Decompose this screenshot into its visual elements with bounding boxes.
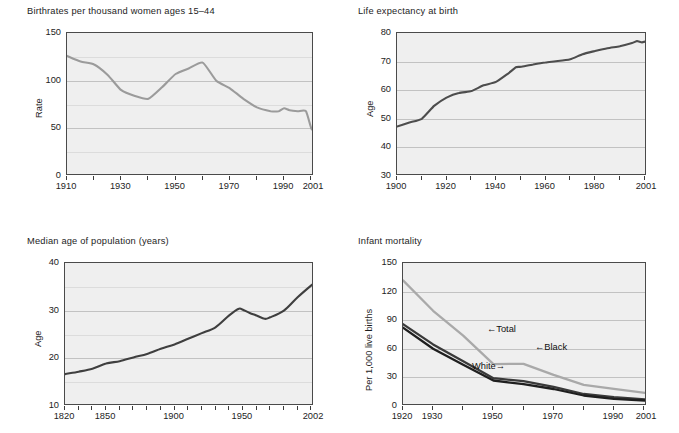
x-axis-tick	[297, 406, 298, 410]
chart-title-birthrates: Birthrates per thousand women ages 15–44	[27, 6, 215, 16]
x-axis-label: 2001	[303, 181, 324, 191]
x-axis-tick	[147, 176, 148, 180]
x-axis-label: 2001	[636, 411, 657, 421]
y-axis-label: 30	[372, 371, 397, 381]
y-axis-label: 70	[366, 56, 391, 66]
x-axis-tick	[229, 176, 230, 180]
x-axis-tick	[644, 176, 645, 180]
x-axis-label: 1970	[219, 181, 240, 191]
x-axis-label: 1920	[392, 411, 413, 421]
x-axis-tick	[175, 176, 176, 180]
x-axis-tick	[105, 406, 106, 410]
series-group	[65, 263, 313, 405]
x-axis-label: 1970	[542, 411, 563, 421]
x-axis-label: 1950	[232, 411, 253, 421]
x-axis-tick	[396, 176, 397, 180]
series-line-black	[403, 280, 646, 393]
x-axis-tick	[228, 406, 229, 410]
y-axis-label: 40	[366, 141, 391, 151]
x-axis-tick	[174, 406, 175, 410]
x-axis-label: 1940	[485, 181, 506, 191]
plot-background-birthrates	[66, 32, 313, 175]
series-group	[397, 33, 646, 175]
x-axis-label: 1820	[54, 411, 75, 421]
y-axis-label: 0	[36, 170, 61, 180]
x-axis-tick	[91, 406, 92, 410]
x-axis-tick	[613, 406, 614, 410]
x-axis-tick	[283, 406, 284, 410]
series-line-birthrates	[67, 56, 313, 130]
x-axis-tick	[520, 176, 521, 180]
series-annotation-white: White→	[472, 361, 505, 371]
y-axis-label: 30	[366, 170, 391, 180]
plot-background-median-age	[64, 262, 313, 405]
x-axis-tick	[310, 406, 311, 410]
x-axis-tick	[242, 406, 243, 410]
y-axis-label: 60	[372, 343, 397, 353]
x-axis-tick	[64, 406, 65, 410]
y-axis-label: 0	[372, 400, 397, 410]
x-axis-tick	[619, 176, 620, 180]
y-axis-label: 90	[372, 314, 397, 324]
x-axis-tick	[120, 176, 121, 180]
plot-area-life-expectancy	[396, 32, 646, 175]
y-axis-label: 30	[34, 305, 59, 315]
chart-panel-birthrates: Birthrates per thousand women ages 15–44…	[0, 0, 340, 216]
y-axis-label: 100	[36, 75, 61, 85]
x-axis-tick	[146, 406, 147, 410]
plot-area-median-age	[64, 262, 313, 405]
x-axis-label: 1990	[273, 181, 294, 191]
x-axis-tick	[402, 406, 403, 410]
chart-panel-life-expectancy: Life expectancy at birth Age 19001920194…	[340, 0, 679, 216]
series-group	[403, 263, 646, 405]
figure-sheet: Birthrates per thousand women ages 15–44…	[0, 0, 679, 433]
y-axis-title-median-age: Age	[33, 330, 43, 347]
x-axis-label: 1950	[482, 411, 503, 421]
x-axis-tick	[446, 176, 447, 180]
series-line-median-age	[65, 284, 313, 375]
y-axis-label: 150	[36, 27, 61, 37]
y-axis-label: 60	[366, 84, 391, 94]
y-axis-label: 40	[34, 257, 59, 267]
y-axis-label: 80	[366, 27, 391, 37]
x-axis-label: 1950	[164, 181, 185, 191]
x-axis-tick	[215, 406, 216, 410]
x-axis-tick	[594, 176, 595, 180]
x-axis-label: 1850	[95, 411, 116, 421]
x-axis-tick	[310, 176, 311, 180]
plot-background-infant-mortality	[402, 262, 646, 405]
x-axis-tick	[523, 406, 524, 410]
x-axis-tick	[256, 406, 257, 410]
chart-panel-infant-mortality: Infant mortality Per 1,000 live births 1…	[340, 216, 679, 433]
y-axis-label: 50	[366, 113, 391, 123]
x-axis-tick	[462, 406, 463, 410]
x-axis-label: 1930	[422, 411, 443, 421]
x-axis-tick	[495, 176, 496, 180]
chart-title-infant-mortality: Infant mortality	[358, 236, 422, 246]
x-axis-tick	[492, 406, 493, 410]
x-axis-label: 1910	[56, 181, 77, 191]
y-axis-label: 10	[34, 400, 59, 410]
plot-area-infant-mortality	[402, 262, 646, 405]
x-axis-tick	[643, 406, 644, 410]
x-axis-tick	[470, 176, 471, 180]
y-axis-label: 150	[372, 257, 397, 267]
series-line-life-expectancy	[397, 41, 646, 127]
x-axis-tick	[569, 176, 570, 180]
x-axis-tick	[256, 176, 257, 180]
chart-panel-median-age: Median age of population (years) Age 182…	[0, 216, 340, 433]
x-axis-tick	[432, 406, 433, 410]
x-axis-label: 1960	[534, 181, 555, 191]
x-axis-tick	[78, 406, 79, 410]
x-axis-label: 1930	[110, 181, 131, 191]
plot-area-birthrates	[66, 32, 313, 175]
x-axis-tick	[545, 176, 546, 180]
plot-background-life-expectancy	[396, 32, 646, 175]
x-axis-tick	[132, 406, 133, 410]
series-annotation-total: ←Total	[487, 324, 516, 334]
x-axis-tick	[160, 406, 161, 410]
x-axis-tick	[269, 406, 270, 410]
y-axis-label: 20	[34, 352, 59, 362]
y-axis-label: 50	[36, 122, 61, 132]
x-axis-label: 1900	[163, 411, 184, 421]
